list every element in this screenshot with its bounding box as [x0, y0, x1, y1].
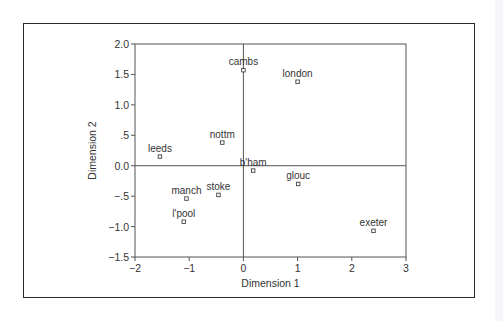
point-label: l'pool: [172, 208, 195, 219]
point-label: glouc: [286, 170, 310, 181]
point-label: manch: [171, 185, 201, 196]
square-marker-icon: [221, 141, 225, 145]
x-tick-label: −1: [183, 262, 195, 274]
y-tick-label: 1.0: [114, 99, 129, 111]
data-point: nottm: [210, 129, 235, 145]
x-tick-label: 1: [295, 262, 301, 274]
point-label: exeter: [360, 217, 388, 228]
y-axis-title: Dimension 2: [86, 121, 98, 180]
point-label: london: [283, 68, 313, 79]
x-tick-label: 0: [240, 262, 246, 274]
data-point: exeter: [360, 217, 388, 233]
y-tick-label: −1.5: [108, 251, 129, 263]
x-tick-label: −2: [129, 262, 141, 274]
x-tick-label: 3: [403, 262, 409, 274]
data-point: leeds: [148, 143, 172, 159]
data-point: london: [283, 68, 313, 84]
y-tick-label: 0.0: [114, 160, 129, 172]
point-label: cambs: [229, 56, 258, 67]
point-label: stoke: [207, 181, 231, 192]
y-tick-label: −1.0: [108, 221, 129, 233]
data-point: stoke: [207, 181, 231, 197]
square-marker-icon: [182, 220, 186, 224]
y-tick-label: .5: [120, 129, 129, 141]
square-marker-icon: [242, 68, 246, 72]
square-marker-icon: [217, 193, 221, 197]
point-label: nottm: [210, 129, 235, 140]
data-point: cambs: [229, 56, 258, 72]
square-marker-icon: [372, 229, 376, 233]
data-points: cambslondonnottmleedsb'hamgloucstokemanc…: [148, 56, 388, 232]
y-tick-label: 1.5: [114, 68, 129, 80]
scatter-plot: −2−101232.01.51.0.50.0−.5−1.0−1.5 cambsl…: [0, 0, 503, 321]
square-marker-icon: [251, 169, 255, 173]
data-point: manch: [171, 185, 201, 201]
y-tick-label: −.5: [114, 190, 129, 202]
square-marker-icon: [296, 182, 300, 186]
square-marker-icon: [158, 155, 162, 159]
point-label: leeds: [148, 143, 172, 154]
x-tick-label: 2: [349, 262, 355, 274]
data-point: glouc: [286, 170, 310, 186]
square-marker-icon: [296, 80, 300, 84]
data-point: l'pool: [172, 208, 195, 224]
point-label: b'ham: [240, 157, 267, 168]
x-axis-title: Dimension 1: [241, 277, 300, 289]
square-marker-icon: [185, 197, 189, 201]
y-tick-label: 2.0: [114, 38, 129, 50]
